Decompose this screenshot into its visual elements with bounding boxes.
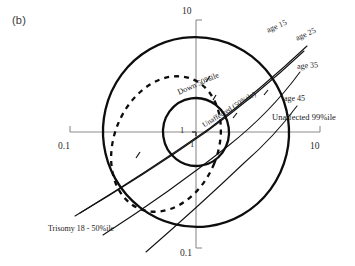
- x-axis-label-max: 10: [310, 141, 320, 151]
- crossing-tick-down-lower: [136, 152, 140, 158]
- contour-crossing-ticks: [136, 76, 268, 158]
- curve-age-35: [103, 72, 300, 235]
- annotation-age-35: age 35: [297, 60, 319, 71]
- x-axis-label-min: 0.1: [58, 141, 70, 151]
- x-axis-label-origin: 1: [190, 139, 194, 149]
- curve-age-45: [146, 106, 297, 252]
- annotation-age-45: age 45: [284, 94, 305, 103]
- y-axis-label-max: 10: [182, 6, 192, 16]
- y-axis-label-min: 0.1: [180, 248, 192, 258]
- crossing-tick-unaff-upper: [213, 95, 216, 100]
- annotation-trisomy-18-50ile: Trisomy 18 - 50%ile: [48, 224, 114, 233]
- curve-age-15: [80, 46, 307, 213]
- crossing-tick-age45: [233, 113, 237, 118]
- annotation-unaffected-99ile: Unaffected 99%ile: [272, 112, 336, 122]
- y-axis-label-origin: 1: [180, 125, 184, 135]
- figure-panel-b: (b): [0, 0, 355, 266]
- axis-group: [70, 20, 320, 248]
- crossing-tick-age35: [264, 90, 268, 95]
